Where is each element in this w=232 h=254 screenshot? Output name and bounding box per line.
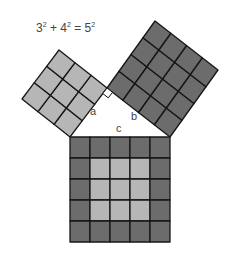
equation-term-b: 42 <box>60 21 71 35</box>
grid-cell <box>110 221 130 242</box>
grid-cell <box>130 221 150 242</box>
side-label-a: a <box>90 105 96 117</box>
grid-cell <box>90 137 110 158</box>
grid-cell <box>70 200 90 221</box>
grid-cell <box>150 221 170 242</box>
square-a-3x3-grid <box>22 50 107 137</box>
grid-cell <box>90 200 110 221</box>
plus-sign: + <box>47 21 61 35</box>
grid-cell <box>110 137 130 158</box>
grid-cell <box>150 137 170 158</box>
equation-text: 32 + 42 = 52 <box>36 21 95 35</box>
side-label-c: c <box>116 122 122 134</box>
grid-cell <box>130 137 150 158</box>
grid-cell <box>150 158 170 179</box>
side-label-b: b <box>131 110 137 122</box>
grid-cell <box>110 179 130 200</box>
equals-sign: = <box>71 21 85 35</box>
grid-cell <box>110 158 130 179</box>
grid-cell <box>90 221 110 242</box>
grid-cell <box>90 158 110 179</box>
grid-cell <box>70 179 90 200</box>
grid-cell <box>130 200 150 221</box>
square-b-4x4-grid <box>107 21 218 137</box>
equation-term-a: 32 <box>36 21 47 35</box>
grid-cell <box>150 200 170 221</box>
grid-cell <box>150 179 170 200</box>
grid-cell <box>90 179 110 200</box>
grid-cell <box>70 158 90 179</box>
grid-cell <box>130 179 150 200</box>
equation-term-c: 52 <box>85 21 96 35</box>
grid-cell <box>70 137 90 158</box>
grid-cell <box>130 158 150 179</box>
grid-cell <box>110 200 130 221</box>
square-c-5x5-grid <box>70 137 170 242</box>
grid-cell <box>70 221 90 242</box>
